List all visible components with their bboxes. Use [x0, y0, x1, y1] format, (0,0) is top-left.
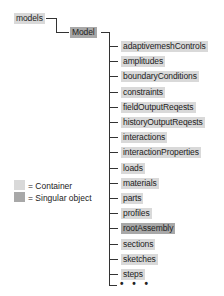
- node-item: sections: [121, 239, 155, 250]
- node-item: historyOutputReqests: [121, 117, 205, 128]
- connector: [109, 274, 118, 275]
- node-model: Model: [70, 27, 97, 38]
- node-item: interactionProperties: [121, 147, 201, 158]
- connector: [109, 152, 118, 153]
- legend-swatch-singular: [14, 192, 25, 202]
- node-item: fieldOutputReqests: [121, 102, 196, 113]
- node-item: parts: [121, 193, 143, 204]
- connector: [109, 198, 118, 199]
- node-item: profiles: [121, 208, 152, 219]
- connector: [109, 285, 117, 286]
- connector: [109, 228, 118, 229]
- connector: [109, 46, 118, 47]
- connector: [56, 18, 57, 32]
- legend-container-label: = Container: [28, 181, 72, 191]
- connector: [109, 61, 118, 62]
- node-item: sketches: [121, 254, 158, 265]
- node-item: constraints: [121, 87, 165, 98]
- node-item: loads: [121, 163, 145, 174]
- node-item: adaptivemeshControls: [121, 41, 208, 52]
- legend-swatch-container: [14, 180, 25, 190]
- node-item: rootAssembly: [121, 223, 175, 234]
- node-models: models: [14, 13, 45, 24]
- trunk-line: [109, 32, 110, 285]
- legend-singular-label: = Singular object: [28, 193, 92, 203]
- connector: [109, 107, 118, 108]
- connector: [109, 168, 118, 169]
- connector: [109, 137, 118, 138]
- node-item: interactions: [121, 132, 167, 143]
- connector: [109, 213, 118, 214]
- node-item: materials: [121, 178, 159, 189]
- connector: [109, 92, 118, 93]
- connector: [109, 244, 118, 245]
- connector: [109, 122, 118, 123]
- node-item: amplitudes: [121, 56, 165, 67]
- connector: [109, 259, 118, 260]
- connector: [56, 32, 69, 33]
- node-item: boundaryConditions: [121, 71, 199, 82]
- connector: [109, 183, 118, 184]
- connector: [109, 76, 118, 77]
- more-ellipsis: • • •: [120, 279, 151, 289]
